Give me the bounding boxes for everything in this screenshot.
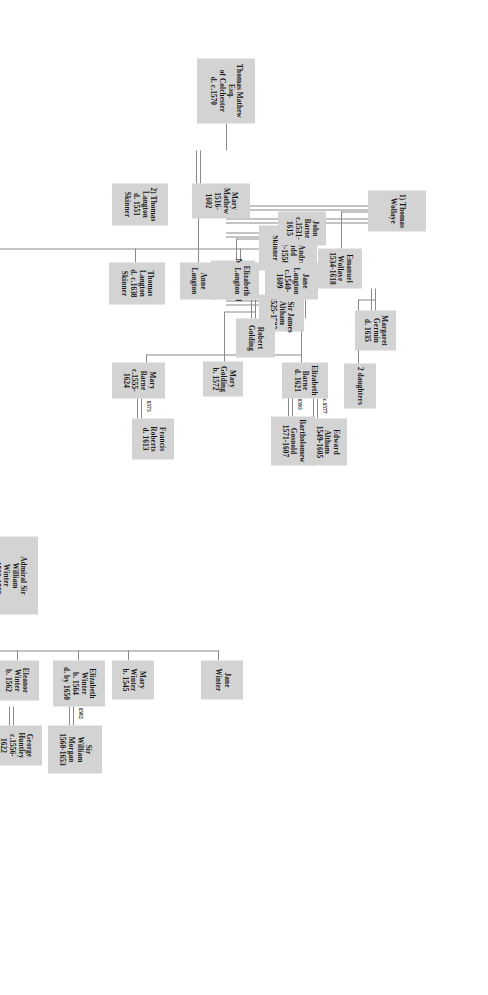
node-jane-langton[interactable]: JaneLangtonc.1540-1609	[265, 262, 318, 299]
marriage-year-altham-barne: c.1577	[322, 398, 328, 413]
node-text-line: of Colchester	[217, 69, 226, 111]
node-text-line: Wollaye	[388, 198, 397, 224]
node-robert-golding[interactable]: RobertGolding	[236, 318, 275, 357]
marriage-bar-mathew-judd	[226, 232, 259, 237]
node-text-line: Langton	[292, 267, 301, 294]
branch-thomas-langton-jr	[135, 248, 136, 262]
node-text-line: d. by 1650	[62, 667, 71, 700]
node-text-line: Mary	[230, 192, 239, 210]
node-anne-langton[interactable]: AnneLangton	[180, 262, 216, 299]
node-text-line: Thomas Mathew	[235, 64, 244, 118]
branch-anne-langton	[198, 248, 199, 262]
node-text-line: Wollaye	[336, 255, 345, 281]
node-text-line: 1615	[285, 221, 294, 236]
node-mary-mathew[interactable]: MaryMathew1516-1602	[192, 183, 250, 218]
node-text-line: Morgan	[66, 736, 75, 762]
node-thomas-mathew[interactable]: Thomas MathewEsq.of Colchesterd. c.1570	[197, 58, 255, 123]
link-martha-marygolding-v	[225, 311, 255, 312]
node-text-line: Langton	[232, 267, 241, 294]
node-text-line: Margaret	[380, 315, 389, 346]
node-text-line: Mary	[147, 371, 156, 389]
node-text-line: Skinner	[120, 270, 129, 295]
node-eleanor-winter[interactable]: EleanorWinterb. 1562	[0, 660, 39, 700]
node-text-line: Elizabeth	[309, 365, 318, 396]
node-text-line: b. 1562	[4, 668, 13, 691]
node-text-line: 1609	[274, 273, 283, 288]
node-text-line: d. 1613	[140, 427, 149, 450]
node-thomas-langton[interactable]: 2) ThomasLangtond. 1551Skinner	[112, 183, 168, 225]
node-thomas-wollaye[interactable]: 1) ThomasWollaye	[368, 190, 426, 231]
branch-mary-winter	[128, 650, 129, 660]
node-text-line: d. c.1638	[128, 269, 137, 297]
node-text-line: 1560-1653	[58, 733, 67, 766]
node-francis-roberts[interactable]: FrancisRobertsd. 1613	[132, 418, 174, 459]
node-text-line: Langton	[137, 269, 146, 296]
node-text-line: 1516-	[212, 192, 221, 210]
node-jane-winter[interactable]: JaneWinter	[201, 660, 243, 699]
node-text-line: d. c.1570	[209, 76, 218, 104]
bracket-winter-children	[0, 650, 219, 651]
node-text-line: d. 1551	[131, 192, 140, 215]
node-text-line: Golding	[219, 366, 228, 392]
node-edward-altham[interactable]: EdwardAltham1549-1605	[307, 418, 347, 465]
node-text-line: Anne	[198, 272, 207, 289]
node-mary-winter[interactable]: MaryWinterb. 1545	[112, 660, 154, 699]
node-text-line: Winter	[12, 669, 21, 692]
node-text-line: Golding	[247, 325, 256, 351]
node-text-line: Mary	[227, 370, 236, 388]
node-text-line: George	[25, 733, 34, 756]
link-martha-marygolding	[224, 311, 225, 361]
node-text-line: Winter	[213, 668, 222, 691]
node-text-line: Roberts	[149, 426, 158, 451]
node-mary-barne[interactable]: MaryBarnec.1555-1624	[112, 362, 165, 398]
node-william-morgan[interactable]: SirWilliamMorgan1560-1653	[48, 725, 102, 773]
node-text-line: 1534-1618	[327, 252, 336, 285]
node-text-line: Thomas	[146, 270, 155, 296]
node-admiral-winter[interactable]: Admiral SirWilliamWinterc.1532-1589Surve…	[0, 536, 38, 614]
node-george-huntley[interactable]: GeorgeHuntleyc.1556-1622	[0, 725, 42, 765]
node-text-line: Emanuel	[344, 254, 353, 283]
node-text-line: 2) Thomas	[149, 187, 158, 221]
node-text-line: Robert	[256, 326, 265, 348]
node-text-line: Skinner	[123, 191, 132, 216]
node-text-line: Edward	[331, 429, 340, 455]
node-text-line: Bartholomew	[297, 419, 306, 462]
node-elizabeth-barne[interactable]: ElizabethBarned. 1621	[282, 362, 328, 398]
node-emanuel-wollaye[interactable]: EmanuelWollaye1534-1618	[318, 248, 362, 288]
node-text-line: Mathew	[221, 187, 230, 213]
node-text-line: Francis	[157, 426, 166, 450]
node-text-line: Gosnold	[289, 427, 298, 454]
node-text-line: c.1531-	[293, 217, 302, 240]
node-mary-golding[interactable]: MaryGoldingb. 1572	[203, 361, 243, 396]
node-text-line: Barne	[302, 218, 311, 238]
link-wollaye-emanuel-drop	[341, 211, 369, 212]
node-text-line: Winter	[79, 672, 88, 695]
node-two-daughters[interactable]: 2 daughters	[344, 363, 376, 408]
family-tree-chart: 1595 c.1577 1575 1582 1553 Thomas Mathew…	[0, 0, 488, 995]
branch-elizabeth-barne	[301, 354, 302, 362]
node-text-line: 2 daughters	[356, 367, 365, 405]
marriage-year-roberts-barne: 1575	[146, 400, 152, 411]
link-judd-martha-v	[237, 238, 260, 239]
node-elizabeth-langton[interactable]: ElizabethLangton	[223, 262, 259, 299]
marriage-bar-golding-gosnold	[288, 396, 293, 416]
node-text-line: Elizabeth	[88, 668, 97, 699]
marriage-bar-elizabethwinter-morgan	[69, 706, 74, 725]
node-text-line: 1602	[204, 193, 213, 208]
node-text-line: Sir	[84, 744, 93, 754]
node-thomas-langton-jr[interactable]: ThomasLangtond. c.1638Skinner	[109, 262, 165, 304]
node-text-line: Jane	[300, 273, 309, 288]
node-elizabeth-winter[interactable]: ElizabethWinterb. 1564d. by 1650	[53, 660, 105, 706]
node-john-barne[interactable]: JohnBarnec.1531-1615	[278, 211, 326, 245]
node-text-line: c.1540-	[283, 269, 292, 292]
node-margaret-germin[interactable]: MargaretGermind. 1635	[355, 310, 396, 350]
link-wollaye-emanuel	[341, 211, 342, 248]
node-text-line: William	[10, 562, 19, 588]
node-text-line: Barne	[139, 370, 148, 390]
node-text-line: c.1555-	[130, 369, 139, 392]
node-text-line: Admiral Sir	[19, 556, 28, 595]
node-text-line: Mary	[137, 671, 146, 689]
node-text-line: Esq.	[226, 84, 235, 98]
marriage-bar-marybarne-roberts	[137, 398, 142, 418]
bracket-langton-children	[0, 248, 287, 249]
